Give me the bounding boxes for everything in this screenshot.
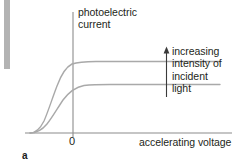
increasing-intensity-annotation-text: increasing intensity of incident light [172, 45, 222, 95]
increasing-intensity-arrow-icon [164, 47, 170, 98]
x-axis-title: accelerating voltage [139, 136, 231, 148]
photoelectric-current-figure: photoelectric current accelerating volta… [0, 0, 240, 168]
origin-tick-label: 0 [69, 135, 75, 148]
panel-caption-label: a [22, 150, 28, 162]
y-axis-title: photoelectric current [78, 6, 137, 31]
